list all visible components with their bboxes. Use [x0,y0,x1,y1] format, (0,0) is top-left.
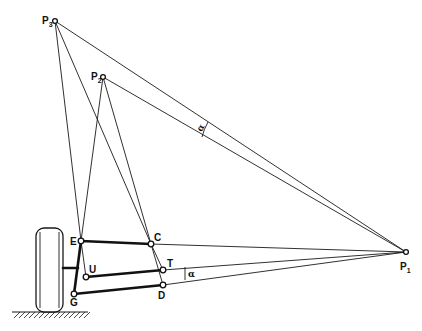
label-e: E [70,236,77,247]
point-labels: P3 P2 P1 E C U T G D [42,15,411,308]
ground-hatch [14,312,20,318]
alpha-upper-label: α [195,122,207,133]
ground-hatch [49,312,55,318]
label-c: C [154,232,161,243]
joints [53,19,409,297]
label-t: T [167,258,173,269]
joint-p1 [404,250,409,255]
ground-hatch [74,312,80,318]
label-p2: P2 [91,71,102,84]
construction-line-e-u [81,241,86,277]
construction-line-p2-p1 [103,77,406,252]
joint-p3 [53,19,58,24]
joint-t [160,267,166,273]
ground-hatch [69,312,75,318]
ground-hatch [64,312,70,318]
construction-line-d-p1 [163,252,406,285]
link-g-d [74,285,163,294]
joint-c [148,241,154,247]
construction-lines [55,21,406,285]
construction-line-c-d [151,244,163,285]
label-p3: P3 [42,15,53,28]
joint-d [160,282,166,288]
angle-upper: α [195,122,208,137]
construction-line-t-p1 [163,252,406,270]
construction-line-p3-e [55,21,81,241]
alpha-lower-label: α [188,269,195,279]
ground-hatch [59,312,65,318]
suspension-links [74,241,163,294]
wheel [36,228,63,312]
joint-u [83,274,89,280]
ground-hatch [54,312,60,318]
ground-hatch [34,312,40,318]
ground-hatch [44,312,50,318]
construction-line-p2-c [103,77,151,244]
construction-line-c-p1 [151,244,406,252]
ground-hatch [24,312,30,318]
suspension-diagram: α α P3 P2 P1 E C U T G D [0,0,422,331]
ground-hatch [79,312,85,318]
ground-hatch [29,312,35,318]
ground-hatch [19,312,25,318]
construction-line-p3-p1 [55,21,406,252]
label-u: U [89,264,96,275]
link-u-t [86,270,163,277]
joint-g [71,291,77,297]
label-d: D [158,290,165,301]
label-p1: P1 [400,261,411,274]
ground [12,312,90,318]
label-g: G [70,297,78,308]
link-e-c [81,241,151,244]
ground-hatch [84,312,90,318]
angle-lower: α [185,267,195,280]
joint-e [78,238,84,244]
construction-line-p2-e [81,77,103,241]
construction-line-p3-c [55,21,151,244]
ground-hatch [39,312,45,318]
